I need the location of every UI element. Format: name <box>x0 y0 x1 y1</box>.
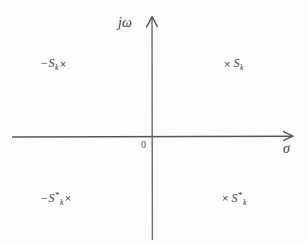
cross-icon: × <box>60 59 66 70</box>
pole-base: S <box>48 56 54 70</box>
pole-subscript: k <box>240 63 244 72</box>
pole-superscript: * <box>238 190 243 200</box>
pole-label-upper-right: Sk <box>230 57 243 72</box>
pole-base: S <box>233 56 239 70</box>
pole-base: S <box>231 191 237 205</box>
pole-label-lower-right: S*k <box>228 191 246 207</box>
pole-superscript: * <box>55 190 60 200</box>
pole-subscript: k <box>60 198 64 207</box>
pole-label-lower-left: −S*k <box>41 191 65 207</box>
pole-label-upper-left: −Sk <box>41 57 60 72</box>
real-axis-line <box>12 136 291 137</box>
pole-marker-lower-left: −S*k × <box>41 191 71 207</box>
pole-base: S <box>48 191 54 205</box>
real-axis-label: σ <box>283 142 290 156</box>
origin-label: 0 <box>141 140 146 150</box>
s-plane-diagram: jω σ 0 −Sk × × Sk −S*k × × S*k <box>0 0 307 244</box>
pole-marker-upper-right: × Sk <box>224 57 244 72</box>
pole-subscript: k <box>243 198 247 207</box>
pole-subscript: k <box>55 63 59 72</box>
imaginary-axis-label: jω <box>118 16 132 30</box>
axes-group <box>0 0 307 244</box>
cross-icon: × <box>65 193 71 204</box>
pole-marker-upper-left: −Sk × <box>41 57 66 72</box>
pole-marker-lower-right: × S*k <box>222 191 247 207</box>
